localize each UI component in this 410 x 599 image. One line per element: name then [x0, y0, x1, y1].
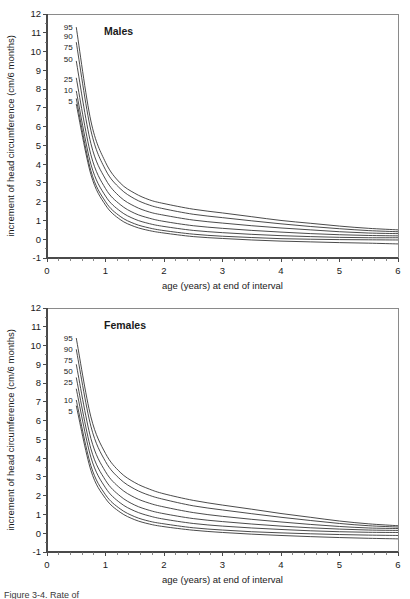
y-tick-label: 8	[36, 377, 41, 388]
y-tick-label: 0	[36, 234, 41, 245]
y-tick-label: 4	[36, 453, 41, 464]
percentile-label: 90	[64, 345, 73, 354]
y-tick-label: -1	[33, 252, 41, 263]
x-tick-label: 6	[395, 265, 400, 276]
x-tick-label: 0	[44, 559, 49, 570]
x-tick-label: 6	[395, 559, 400, 570]
plot-area-females: -101234567891011120123456age (years) at …	[0, 295, 410, 591]
x-tick-label: 0	[44, 265, 49, 276]
y-tick-label: 8	[36, 83, 41, 94]
x-tick-label: 3	[220, 265, 225, 276]
y-tick-label: 10	[30, 340, 41, 351]
percentile-label: 50	[64, 367, 73, 376]
percentile-curve	[76, 78, 398, 236]
percentile-label: 5	[68, 407, 73, 416]
percentile-label: 95	[64, 23, 73, 32]
percentile-label: 50	[64, 55, 73, 64]
y-tick-label: 3	[36, 471, 41, 482]
percentile-label: 75	[64, 356, 73, 365]
y-tick-label: 10	[30, 46, 41, 57]
y-tick-label: 12	[30, 302, 41, 313]
y-axis-title: increment of head circumference (cm/6 mo…	[5, 35, 16, 237]
percentile-curve	[76, 42, 398, 232]
y-tick-label: 7	[36, 396, 41, 407]
percentile-label: 10	[64, 396, 73, 405]
percentile-curve	[76, 104, 398, 244]
percentile-curve	[76, 98, 398, 240]
y-tick-label: 9	[36, 65, 41, 76]
y-tick-label: 0	[36, 528, 41, 539]
plot-area-males: -101234567891011120123456age (years) at …	[0, 0, 410, 295]
percentile-curve	[76, 27, 398, 230]
x-tick-label: 1	[103, 265, 108, 276]
y-tick-label: 6	[36, 415, 41, 426]
percentile-label: 25	[64, 75, 73, 84]
percentile-label: 75	[64, 43, 73, 52]
x-tick-label: 1	[103, 559, 108, 570]
figure-caption: Figure 3-4. Rate of	[0, 590, 410, 599]
x-tick-label: 5	[337, 559, 342, 570]
y-tick-label: 12	[30, 8, 41, 19]
y-tick-label: 9	[36, 359, 41, 370]
percentile-curve	[76, 91, 398, 238]
percentile-curve	[76, 349, 398, 527]
x-tick-label: 4	[278, 559, 283, 570]
y-tick-label: 7	[36, 102, 41, 113]
y-tick-label: 11	[31, 321, 41, 332]
y-tick-label: 1	[36, 215, 41, 226]
percentile-curve	[76, 338, 398, 526]
x-tick-label: 2	[161, 265, 166, 276]
percentile-label: 10	[64, 86, 73, 95]
x-tick-label: 2	[161, 559, 166, 570]
percentile-label: 5	[68, 97, 73, 106]
y-tick-label: -1	[33, 546, 41, 557]
percentile-curve	[76, 364, 398, 528]
chart-panel-males: -101234567891011120123456age (years) at …	[0, 0, 410, 295]
y-axis-title: increment of head circumference (cm/6 mo…	[5, 329, 16, 531]
percentile-curve	[76, 389, 398, 533]
chart-panel-females: -101234567891011120123456age (years) at …	[0, 295, 410, 591]
y-tick-label: 11	[31, 27, 41, 38]
y-tick-label: 2	[36, 490, 41, 501]
x-tick-label: 4	[278, 265, 283, 276]
y-tick-label: 5	[36, 140, 41, 151]
y-tick-label: 3	[36, 177, 41, 188]
x-tick-label: 3	[220, 559, 225, 570]
y-tick-label: 4	[36, 159, 41, 170]
percentile-curve	[76, 406, 398, 539]
x-tick-label: 5	[337, 265, 342, 276]
y-tick-label: 2	[36, 196, 41, 207]
percentile-label: 25	[64, 378, 73, 387]
x-axis-title: age (years) at end of interval	[162, 280, 283, 291]
panel-title: Males	[104, 25, 133, 37]
x-axis-title: age (years) at end of interval	[162, 574, 283, 585]
y-tick-label: 6	[36, 121, 41, 132]
y-tick-label: 5	[36, 434, 41, 445]
percentile-label: 95	[64, 334, 73, 343]
percentile-label: 90	[64, 32, 73, 41]
panel-title: Females	[104, 319, 146, 331]
y-tick-label: 1	[36, 509, 41, 520]
